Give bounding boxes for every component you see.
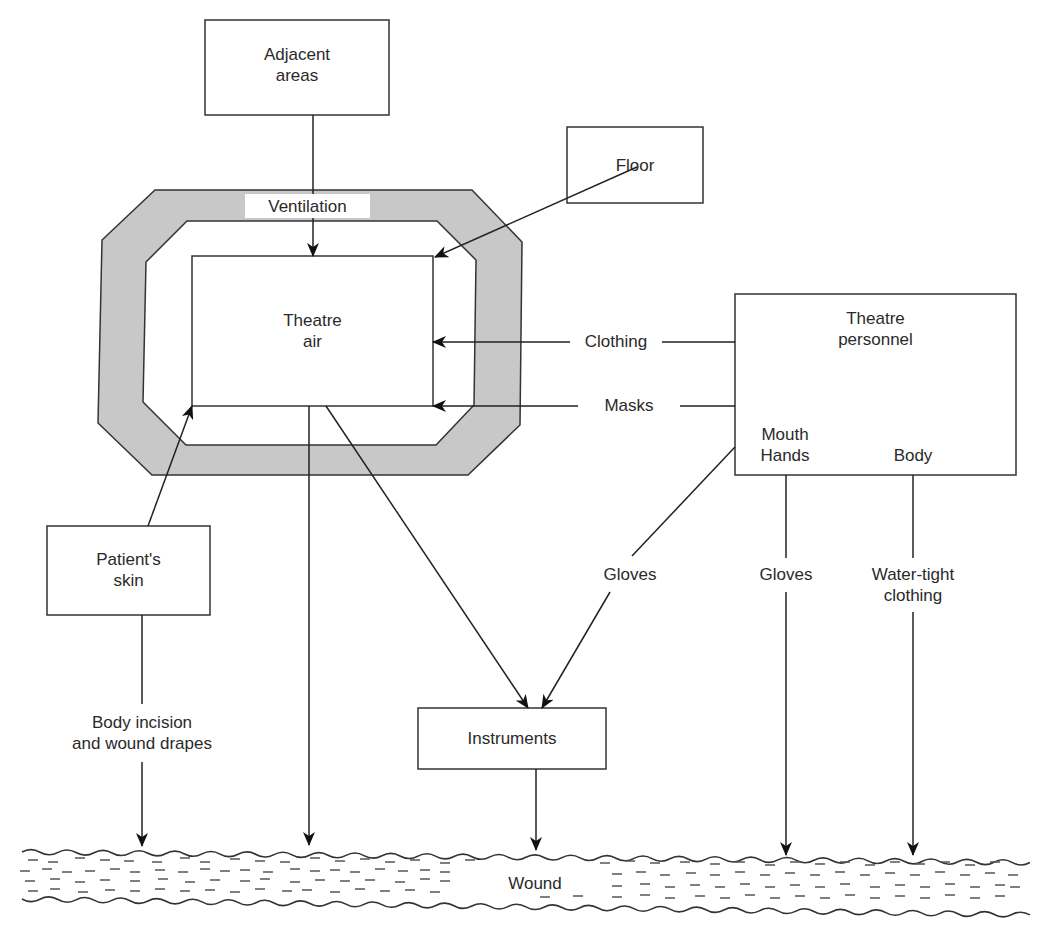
node-theatre-air: Theatre air bbox=[192, 310, 433, 352]
label-ventilation: Ventilation bbox=[245, 196, 370, 217]
edge-hands-gloves bbox=[632, 447, 735, 556]
node-instruments: Instruments bbox=[418, 728, 606, 749]
node-adjacent-areas: Adjacent areas bbox=[205, 44, 389, 86]
diagram-canvas bbox=[0, 0, 1051, 947]
label-clothing: Clothing bbox=[572, 331, 660, 352]
label-gloves-instruments: Gloves bbox=[590, 564, 670, 585]
node-body: Body bbox=[870, 445, 956, 466]
label-water-tight-clothing: Water-tight clothing bbox=[853, 564, 973, 606]
label-body-incision: Body incision and wound drapes bbox=[57, 712, 227, 754]
node-theatre-personnel: Theatre personnel bbox=[735, 308, 1016, 350]
label-gloves-wound: Gloves bbox=[746, 564, 826, 585]
node-wound: Wound bbox=[470, 873, 600, 894]
label-masks: Masks bbox=[580, 395, 678, 416]
node-floor: Floor bbox=[567, 155, 703, 176]
node-mouth-hands: Mouth Hands bbox=[745, 424, 825, 466]
node-patients-skin: Patient's skin bbox=[47, 549, 210, 591]
